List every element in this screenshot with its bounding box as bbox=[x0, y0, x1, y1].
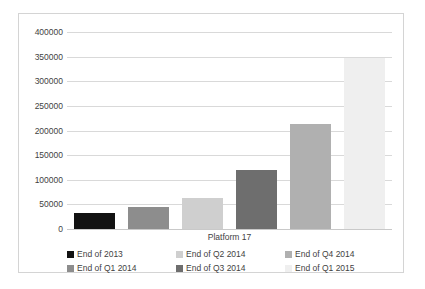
legend-swatch-icon bbox=[67, 265, 74, 272]
legend-swatch-icon bbox=[285, 265, 292, 272]
bar-6[interactable] bbox=[344, 58, 385, 229]
legend-label: End of Q1 2015 bbox=[295, 264, 355, 273]
legend-swatch-icon bbox=[285, 251, 292, 258]
legend-label: End of Q4 2014 bbox=[295, 250, 355, 259]
legend-item[interactable]: End of Q1 2015 bbox=[285, 261, 392, 275]
bar-2[interactable] bbox=[128, 207, 169, 229]
chart-container: 4000003500003000002500002000001500001000… bbox=[18, 13, 404, 273]
bar-4[interactable] bbox=[236, 170, 277, 229]
legend-item[interactable]: End of 2013 bbox=[67, 247, 174, 261]
y-axis-tick-label: 50000 bbox=[39, 199, 63, 209]
legend-item[interactable]: End of Q1 2014 bbox=[67, 261, 174, 275]
legend-item[interactable]: End of Q2 2014 bbox=[176, 247, 283, 261]
legend-label: End of Q2 2014 bbox=[186, 250, 246, 259]
legend-item[interactable]: End of Q4 2014 bbox=[285, 247, 392, 261]
legend-label: End of Q3 2014 bbox=[186, 264, 246, 273]
x-axis-category-label: Platform 17 bbox=[67, 232, 392, 242]
legend-swatch-icon bbox=[176, 251, 183, 258]
bar-3[interactable] bbox=[182, 198, 223, 229]
plot-area bbox=[67, 32, 392, 229]
y-axis-tick-label: 300000 bbox=[35, 76, 63, 86]
y-axis-tick-label: 0 bbox=[58, 224, 63, 234]
bar-5[interactable] bbox=[290, 124, 331, 229]
legend-swatch-icon bbox=[176, 265, 183, 272]
y-axis-tick-label: 100000 bbox=[35, 175, 63, 185]
chart-legend: End of 2013End of Q2 2014End of Q4 2014E… bbox=[67, 247, 392, 275]
legend-item[interactable]: End of Q3 2014 bbox=[176, 261, 283, 275]
y-axis-tick-label: 250000 bbox=[35, 101, 63, 111]
y-axis-tick-labels: 4000003500003000002500002000001500001000… bbox=[19, 32, 63, 229]
y-axis-tick-label: 150000 bbox=[35, 150, 63, 160]
y-axis-tick-label: 350000 bbox=[35, 52, 63, 62]
x-axis-line bbox=[67, 229, 392, 230]
legend-label: End of Q1 2014 bbox=[77, 264, 137, 273]
legend-label: End of 2013 bbox=[77, 250, 123, 259]
bar-1[interactable] bbox=[74, 213, 115, 229]
y-axis-tick-label: 400000 bbox=[35, 27, 63, 37]
legend-swatch-icon bbox=[67, 251, 74, 258]
y-axis-tick-label: 200000 bbox=[35, 126, 63, 136]
bar-group bbox=[67, 32, 392, 229]
